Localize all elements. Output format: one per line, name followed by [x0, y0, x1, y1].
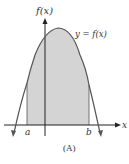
- x-axis-arrow-icon: [115, 123, 121, 128]
- shaded-area: [27, 28, 89, 125]
- x-axis-label: x: [122, 120, 127, 130]
- curve-right-arrow-icon: [98, 130, 103, 137]
- y-axis-arrow-icon: [43, 18, 48, 24]
- lower-bound-label: a: [25, 127, 30, 137]
- curve-left-arrow-icon: [11, 130, 16, 137]
- upper-bound-label: b: [86, 127, 92, 137]
- area-under-curve-diagram: f(x) y = f(x) x a b (A): [0, 0, 129, 164]
- figure-caption: (A): [63, 143, 76, 153]
- curve-label: y = f(x): [74, 29, 107, 39]
- y-axis-label: f(x): [35, 5, 53, 16]
